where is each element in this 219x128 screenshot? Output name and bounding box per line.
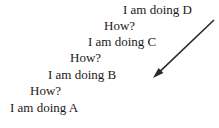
text-line-how-3: How?: [30, 83, 61, 99]
arrow-head-icon: [153, 68, 163, 78]
text-line-how-2: How?: [70, 50, 101, 66]
text-line-i-am-doing-c: I am doing C: [88, 34, 156, 50]
text-line-i-am-doing-d: I am doing D: [123, 2, 192, 18]
diagonal-arrow-down-left: [153, 20, 214, 78]
text-line-i-am-doing-b: I am doing B: [48, 67, 116, 83]
text-line-i-am-doing-a: I am doing A: [10, 100, 78, 116]
arrow-shaft: [160, 20, 214, 72]
diagram-canvas: I am doing D How? I am doing C How? I am…: [0, 0, 219, 128]
text-line-how-1: How?: [104, 18, 135, 34]
